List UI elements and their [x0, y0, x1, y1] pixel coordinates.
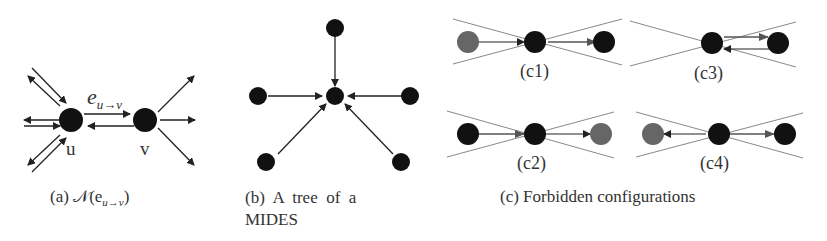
panel-b-graph — [249, 19, 419, 171]
node-v — [133, 108, 157, 132]
sublabel-c1: (c1) — [520, 61, 549, 82]
node-v-label: v — [140, 138, 150, 160]
node-u — [59, 108, 83, 132]
panel-c4-graph — [636, 112, 803, 158]
caption-b: (b) A tree of a MIDES — [245, 187, 356, 231]
caption-c: (c) Forbidden configurations — [500, 187, 695, 207]
panel-c3-graph — [630, 21, 796, 67]
sublabel-c3: (c3) — [694, 63, 723, 84]
sublabel-c4: (c4) — [700, 153, 729, 174]
panel-c1-graph — [453, 19, 622, 65]
caption-a: (a) 𝒩(eu→v) — [50, 187, 129, 208]
panel-c2-graph — [447, 111, 614, 158]
sublabel-c2: (c2) — [517, 153, 546, 174]
edge-label: eu→v — [87, 84, 122, 113]
node-u-label: u — [66, 138, 76, 160]
